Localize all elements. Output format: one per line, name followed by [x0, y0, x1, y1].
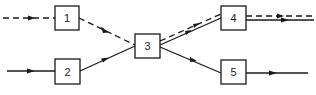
- edge-input-to-1: [3, 16, 55, 21]
- node-4-label: 4: [230, 12, 236, 24]
- node-3-label: 3: [144, 40, 150, 52]
- edge-input-to-2: [7, 69, 55, 74]
- edge-3-to-4-dashed: [160, 14, 221, 41]
- node-1: 1: [55, 6, 79, 30]
- edge-1-to-3: [79, 18, 135, 45]
- node-3: 3: [135, 34, 160, 58]
- node-2-label: 2: [64, 66, 70, 78]
- node-4: 4: [221, 6, 246, 30]
- flow-diagram: 1 2 3 4 5: [0, 0, 316, 95]
- node-2: 2: [55, 59, 80, 84]
- node-5-label: 5: [230, 66, 236, 78]
- edge-4-to-output-solid: [246, 18, 314, 23]
- node-5: 5: [221, 60, 246, 84]
- edge-3-to-5: [160, 47, 221, 73]
- edge-2-to-3: [80, 46, 135, 71]
- edge-4-to-output-dashed: [246, 14, 314, 19]
- edge-3-to-4-solid: [160, 18, 221, 45]
- node-1-label: 1: [64, 12, 70, 24]
- edge-5-to-output: [246, 71, 308, 76]
